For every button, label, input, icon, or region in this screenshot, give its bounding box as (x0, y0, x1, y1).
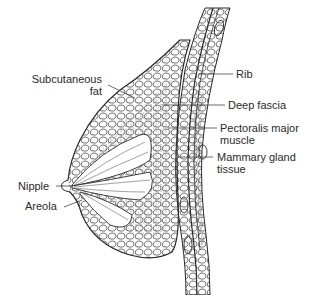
label-pectoralis-line2: muscle (220, 134, 299, 146)
label-mammary-gland: Mammary gland tissue (217, 151, 296, 175)
label-nipple: Nipple (18, 180, 49, 192)
anatomy-illustration (0, 0, 319, 295)
label-pectoralis-major: Pectoralis major muscle (220, 122, 299, 146)
label-mammary-line2: tissue (217, 163, 296, 175)
label-subcutaneous-fat-line2: fat (30, 85, 102, 97)
label-subcutaneous-fat: Subcutaneous fat (30, 73, 102, 97)
breast-anatomy-diagram: Subcutaneous fat Rib Deep fascia Pectora… (0, 0, 319, 295)
label-rib: Rib (236, 68, 253, 80)
label-subcutaneous-fat-line1: Subcutaneous (30, 73, 102, 85)
label-deep-fascia: Deep fascia (228, 99, 286, 111)
label-areola: Areola (25, 200, 57, 212)
label-mammary-line1: Mammary gland (217, 151, 296, 163)
label-pectoralis-line1: Pectoralis major (220, 122, 299, 134)
